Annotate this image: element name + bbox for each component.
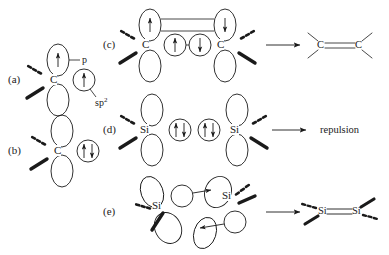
panel-b-bonds (31, 137, 47, 169)
sp2-annotation-base: sp (95, 97, 104, 108)
sp2-orbital-annotation-a: sp2 (95, 96, 107, 108)
sp2-lobe-down-a (47, 84, 69, 116)
lone-pair-orbital-d-left (169, 119, 191, 141)
lone-pair-orbital-e-right (224, 211, 246, 233)
panel-e-bonds-right (236, 185, 255, 203)
sp2-lobe-up-b (51, 115, 73, 147)
p-orbital-annotation-a: p (82, 54, 87, 65)
panel-d-bonds-left (120, 116, 136, 148)
product-atom-e-right: Si (352, 205, 361, 216)
panel-label-e: (e) (103, 205, 115, 217)
donation-arrow-lower (200, 224, 224, 228)
panel-label-c: (c) (103, 38, 115, 50)
panel-a-bonds (27, 66, 43, 98)
sp2-lobe-down-c-right (214, 50, 236, 82)
atom-label-c-carbon-right: C (217, 39, 224, 50)
product-atom-c-right: C (355, 39, 362, 50)
orbital-d-left-down (141, 134, 163, 166)
atom-label-e-silicon-right: Si (222, 190, 231, 201)
panel-label-b: (b) (8, 144, 21, 156)
lone-pair-orbital-e-left (171, 185, 193, 207)
panel-d-spin-pairs (176, 123, 213, 137)
product-atom-e-left: Si (318, 205, 327, 216)
product-disilene-e (302, 199, 377, 224)
orbital-d-left-up (141, 94, 163, 126)
sp2-lobe-down-c-left (139, 50, 161, 82)
panel-label-a: (a) (8, 73, 20, 85)
spin-pair-b (84, 144, 92, 158)
panel-e-donation-arrows (193, 190, 224, 228)
panel-label-d: (d) (103, 123, 116, 135)
orbital-d-right-up (226, 94, 248, 126)
orbital-bonding-figure: (a) (b) (c) (d) (e) C C C C Si Si Si Si … (0, 0, 389, 255)
repulsion-result-label: repulsion (320, 124, 359, 135)
lone-pair-orbital-d-right (198, 119, 220, 141)
atom-label-d-silicon-left: Si (140, 124, 149, 135)
panel-c-bonds-right (239, 31, 255, 63)
sp2-lobe-down-b (51, 155, 73, 187)
donation-arrow-upper (193, 190, 211, 193)
atom-label-d-silicon-right: Si (230, 124, 239, 135)
lone-pair-orbital-b (77, 140, 99, 162)
panel-c-overlap-lines (161, 19, 214, 45)
atom-label-b-carbon: C (54, 145, 61, 156)
panel-e-orbitals (136, 172, 246, 251)
panel-c-bonds-left (120, 31, 136, 63)
sp2-annotation-superscript: 2 (104, 96, 108, 104)
atom-label-c-carbon-left: C (142, 39, 149, 50)
orbital-d-right-down (226, 134, 248, 166)
product-atom-c-left: C (317, 39, 324, 50)
empty-orbital-e-right (190, 214, 221, 251)
panel-d-bonds-right (251, 116, 267, 148)
atom-label-a-carbon: C (50, 74, 57, 85)
atom-label-e-silicon-left: Si (152, 200, 161, 211)
